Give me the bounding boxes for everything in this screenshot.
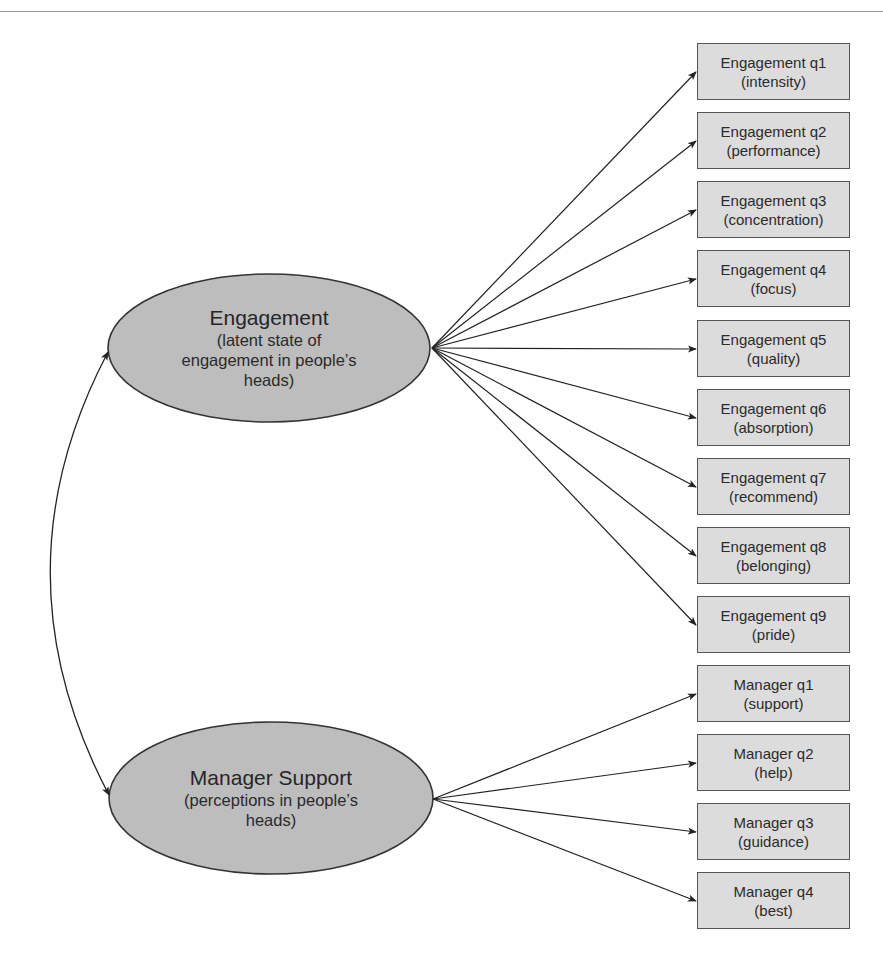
indicator-desc: (guidance) bbox=[738, 832, 809, 851]
indicator-engagement-q5: Engagement q5 (quality) bbox=[697, 320, 850, 377]
indicator-desc: (performance) bbox=[726, 141, 820, 160]
engagement-subtitle-2: engagement in people’s bbox=[182, 350, 357, 370]
loading-arrow bbox=[432, 348, 696, 349]
loading-arrow bbox=[433, 763, 696, 799]
indicator-label: Manager q1 bbox=[733, 675, 813, 694]
loading-arrow bbox=[432, 141, 696, 348]
indicator-label: Engagement q4 bbox=[721, 260, 827, 279]
loading-arrow bbox=[432, 348, 696, 625]
indicator-desc: (belonging) bbox=[736, 556, 811, 575]
loading-arrow bbox=[432, 72, 696, 348]
indicator-label: Engagement q3 bbox=[721, 191, 827, 210]
indicator-label: Engagement q6 bbox=[721, 399, 827, 418]
indicator-engagement-q9: Engagement q9 (pride) bbox=[697, 596, 850, 653]
loading-arrow bbox=[432, 210, 696, 348]
indicator-engagement-q4: Engagement q4 (focus) bbox=[697, 250, 850, 307]
indicator-label: Manager q4 bbox=[733, 882, 813, 901]
indicator-desc: (concentration) bbox=[723, 210, 823, 229]
indicator-label: Engagement q9 bbox=[721, 606, 827, 625]
indicator-desc: (intensity) bbox=[741, 72, 806, 91]
indicator-desc: (best) bbox=[754, 901, 792, 920]
indicator-engagement-q2: Engagement q2 (performance) bbox=[697, 112, 850, 169]
indicator-desc: (focus) bbox=[751, 279, 797, 298]
engagement-factor: Engagement (latent state of engagement i… bbox=[118, 278, 420, 418]
indicator-engagement-q3: Engagement q3 (concentration) bbox=[697, 181, 850, 238]
engagement-subtitle-3: heads) bbox=[244, 370, 294, 390]
manager-support-factor: Manager Support (perceptions in people’s… bbox=[120, 748, 422, 848]
indicator-label: Engagement q7 bbox=[721, 468, 827, 487]
indicator-desc: (support) bbox=[743, 694, 803, 713]
engagement-loadings bbox=[432, 72, 696, 625]
indicator-label: Engagement q8 bbox=[721, 537, 827, 556]
correlation-arrow bbox=[50, 352, 109, 795]
manager-support-title: Manager Support bbox=[190, 766, 352, 790]
loading-arrow bbox=[432, 348, 696, 487]
indicator-manager-q1: Manager q1 (support) bbox=[697, 665, 850, 722]
manager-support-subtitle-2: heads) bbox=[246, 810, 296, 830]
indicator-engagement-q6: Engagement q6 (absorption) bbox=[697, 389, 850, 446]
loading-arrow bbox=[432, 348, 696, 418]
loading-arrow bbox=[433, 799, 696, 832]
indicator-label: Manager q3 bbox=[733, 813, 813, 832]
manager-loadings bbox=[433, 694, 696, 901]
loading-arrow bbox=[432, 279, 696, 348]
indicator-label: Manager q2 bbox=[733, 744, 813, 763]
indicator-manager-q4: Manager q4 (best) bbox=[697, 872, 850, 929]
indicator-desc: (pride) bbox=[752, 625, 795, 644]
indicator-desc: (help) bbox=[754, 763, 792, 782]
indicator-label: Engagement q1 bbox=[721, 53, 827, 72]
indicator-desc: (quality) bbox=[747, 349, 800, 368]
indicator-label: Engagement q2 bbox=[721, 122, 827, 141]
manager-support-subtitle-1: (perceptions in people’s bbox=[184, 790, 358, 810]
loading-arrow bbox=[433, 799, 696, 901]
indicator-manager-q3: Manager q3 (guidance) bbox=[697, 803, 850, 860]
indicator-desc: (absorption) bbox=[733, 418, 813, 437]
engagement-subtitle-1: (latent state of bbox=[217, 330, 322, 350]
indicator-engagement-q1: Engagement q1 (intensity) bbox=[697, 43, 850, 100]
indicator-manager-q2: Manager q2 (help) bbox=[697, 734, 850, 791]
loading-arrow bbox=[432, 348, 696, 556]
loading-arrow bbox=[433, 694, 696, 799]
engagement-title: Engagement bbox=[209, 306, 328, 330]
indicator-desc: (recommend) bbox=[729, 487, 818, 506]
indicator-engagement-q7: Engagement q7 (recommend) bbox=[697, 458, 850, 515]
indicator-engagement-q8: Engagement q8 (belonging) bbox=[697, 527, 850, 584]
indicator-label: Engagement q5 bbox=[721, 330, 827, 349]
